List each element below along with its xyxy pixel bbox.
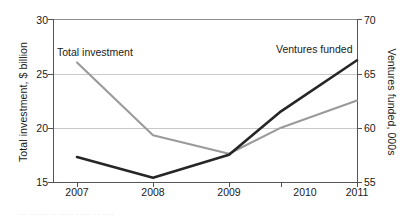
cropped-caption-text: ··· ······ ·· ····· ····· ·· ····: [18, 210, 248, 219]
x-axis-ticks: [77, 182, 357, 187]
gridlines: [53, 19, 357, 128]
line-total-investment: [77, 62, 357, 153]
y-axis-left-ticks: [48, 19, 53, 182]
series-label-total-investment: Total investment: [57, 46, 133, 58]
line-ventures-funded: [77, 60, 357, 177]
series-label-ventures-funded: Ventures funded: [276, 43, 352, 55]
chart-figure: Total investment, $ billion Ventures fun…: [0, 0, 409, 220]
plot-area: [0, 0, 409, 220]
